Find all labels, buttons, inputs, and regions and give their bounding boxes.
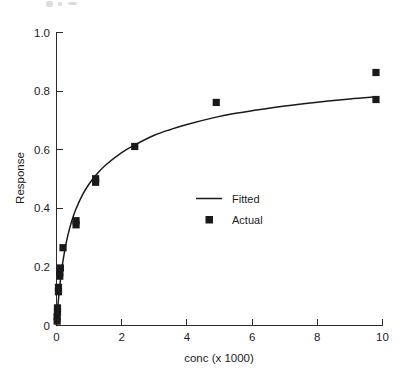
x-tick-label: 4 bbox=[184, 331, 191, 343]
x-tick-label: 8 bbox=[314, 331, 320, 343]
data-point-marker bbox=[372, 96, 379, 103]
x-axis-tick-labels: 0 2 4 6 8 10 bbox=[53, 331, 389, 343]
actual-points-series bbox=[54, 69, 380, 325]
x-axis-title: conc (x 1000) bbox=[184, 352, 254, 364]
chart-figure: 1.0 0.8 0.6 0.4 0.2 0 0 2 4 6 8 10 conc … bbox=[0, 0, 407, 383]
data-point-marker bbox=[92, 175, 99, 182]
chart-plot-area: 1.0 0.8 0.6 0.4 0.2 0 0 2 4 6 8 10 conc … bbox=[0, 0, 407, 383]
data-point-marker bbox=[54, 304, 61, 311]
y-tick-label: 0 bbox=[44, 320, 50, 332]
x-axis-ticks bbox=[57, 319, 383, 326]
fitted-curve-path bbox=[57, 97, 376, 326]
y-tick-label: 1.0 bbox=[34, 27, 50, 39]
data-point-marker bbox=[59, 244, 66, 251]
data-point-marker bbox=[131, 143, 138, 150]
y-tick-label: 0.6 bbox=[34, 144, 50, 156]
legend-square-swatch bbox=[206, 216, 214, 224]
chart-legend: Fitted Actual bbox=[196, 193, 263, 226]
y-tick-label: 0.8 bbox=[34, 85, 50, 97]
legend-entry-fitted: Fitted bbox=[196, 193, 260, 205]
data-point-marker bbox=[213, 99, 220, 106]
x-tick-label: 10 bbox=[376, 331, 389, 343]
y-tick-label: 0.4 bbox=[34, 202, 51, 214]
y-axis-tick-labels: 1.0 0.8 0.6 0.4 0.2 0 bbox=[34, 27, 51, 332]
x-tick-label: 2 bbox=[118, 331, 124, 343]
data-point-marker bbox=[55, 284, 62, 291]
x-tick-label: 6 bbox=[249, 331, 255, 343]
x-tick-label: 0 bbox=[53, 331, 59, 343]
fitted-curve-series bbox=[57, 97, 376, 326]
data-point-marker bbox=[57, 264, 64, 271]
y-tick-label: 0.2 bbox=[34, 261, 50, 273]
data-point-marker bbox=[72, 217, 79, 224]
legend-label-fitted: Fitted bbox=[232, 193, 260, 205]
legend-label-actual: Actual bbox=[232, 214, 263, 226]
legend-entry-actual: Actual bbox=[206, 214, 263, 226]
y-axis-title: Response bbox=[14, 152, 26, 204]
axes-frame bbox=[56, 32, 383, 326]
data-point-marker bbox=[372, 69, 379, 76]
